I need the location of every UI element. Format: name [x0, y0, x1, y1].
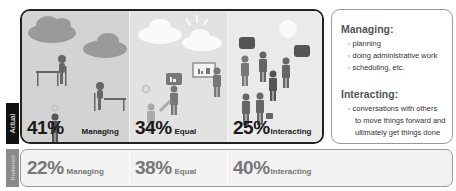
actual-interacting-label: Interacting: [271, 127, 312, 136]
legend-interacting-title: Interacting:: [341, 88, 452, 100]
sun-icon: [279, 20, 297, 38]
actual-tab-label: Actual: [9, 114, 16, 133]
actual-interacting-percent: 25%: [233, 117, 270, 139]
actual-tab: Actual: [6, 103, 19, 144]
arrow-icon: >: [347, 53, 351, 59]
legend-interacting-continuation: ultimately get things done: [341, 127, 452, 139]
preferred-interacting-label: Interacting: [271, 167, 312, 176]
chart-board-icon: [193, 63, 215, 77]
person-at-desk-icon: [36, 55, 67, 86]
legend-managing-item: >scheduling, etc.: [341, 62, 452, 74]
cloud-icon: [28, 16, 76, 43]
person-at-desk-icon: [94, 82, 126, 111]
actual-equal-stat: 34% Equal: [135, 117, 196, 139]
person-icon: [241, 56, 249, 87]
legend-managing-title: Managing:: [341, 23, 452, 35]
preferred-equal-label: Equal: [175, 167, 197, 176]
preferred-tab-label: Preferred: [10, 155, 16, 180]
actual-panel: 41% Managing: [20, 9, 324, 144]
legend-box: Managing: >planning >doing administrativ…: [331, 9, 453, 144]
preferred-interacting-percent: 40%: [233, 157, 270, 179]
sun-icon: [186, 15, 208, 25]
lightbulb-icon: [143, 86, 150, 93]
preferred-panel: 22% Managing 38% Equal 40% Interacting: [20, 149, 453, 187]
arrow-icon: >: [347, 41, 351, 47]
actual-interacting-section: 25% Interacting: [228, 11, 322, 142]
actual-equal-section: 34% Equal: [130, 11, 228, 142]
cloud-icon: [138, 19, 222, 51]
legend-managing-item: >doing administrative work: [341, 50, 452, 62]
actual-managing-label: Managing: [82, 127, 119, 136]
actual-equal-percent: 34%: [135, 117, 172, 139]
legend-interacting-item: >conversations with others: [341, 103, 452, 115]
preferred-managing-label: Managing: [67, 167, 104, 176]
speech-bubble-icon: [166, 73, 182, 85]
legend-managing-item: >planning: [341, 38, 452, 50]
preferred-managing-percent: 22%: [27, 157, 64, 179]
arrow-icon: >: [347, 106, 351, 112]
person-icon: [259, 52, 267, 83]
legend-interacting-continuation: to move things forward and: [341, 115, 452, 127]
person-icon: [282, 58, 290, 89]
divider: [129, 150, 130, 186]
preferred-managing-stat: 22% Managing: [27, 157, 104, 179]
cloud-icon: [83, 33, 127, 58]
actual-managing-stat: 41% Managing: [27, 117, 119, 139]
pencil-icon: [160, 101, 170, 111]
preferred-equal-stat: 38% Equal: [135, 157, 196, 179]
preferred-tab: Preferred: [6, 149, 19, 187]
person-icon: [269, 71, 277, 102]
lightbulb-icon: [52, 105, 58, 111]
divider: [227, 150, 228, 186]
speech-bubble-icon: [239, 37, 310, 57]
preferred-interacting-stat: 40% Interacting: [233, 157, 311, 179]
actual-managing-percent: 41%: [27, 117, 64, 139]
arrow-icon: >: [347, 65, 351, 71]
actual-interacting-stat: 25% Interacting: [233, 117, 311, 139]
person-icon: [213, 68, 221, 98]
actual-equal-label: Equal: [175, 127, 197, 136]
preferred-equal-percent: 38%: [135, 157, 172, 179]
person-icon: [170, 86, 178, 116]
actual-managing-section: 41% Managing: [22, 11, 130, 142]
